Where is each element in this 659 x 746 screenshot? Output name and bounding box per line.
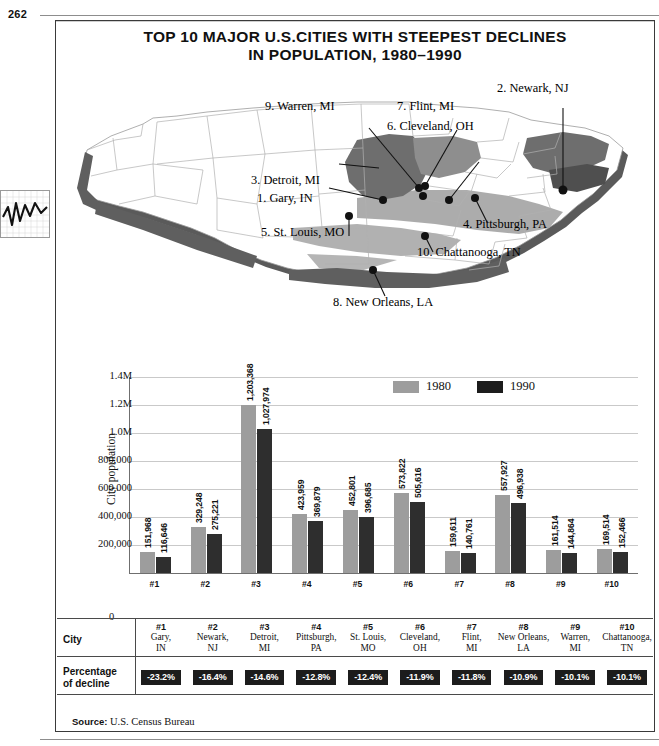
row-label-percentage-line2: of decline	[63, 678, 110, 689]
y-axis-tick: 600,000	[62, 482, 132, 493]
map-callout-2: 2. Newark, NJ	[497, 82, 569, 95]
row-label-city: City	[63, 634, 82, 646]
table-cell-percentage: -11.9%	[394, 666, 446, 685]
city-cells: #1Gary,IN#2Newark,NJ#3Detroit,MI#4Pittsb…	[135, 622, 653, 653]
bar-value-label: 152,466	[617, 517, 627, 547]
plot-area: 1.4M1.2M1.0M800,000600,000400,000200,000…	[129, 377, 638, 574]
bar-value-label: 452,801	[347, 475, 357, 505]
x-axis-tick: #1	[129, 579, 180, 589]
city-rank: #3	[239, 622, 291, 632]
map-callout-6: 6. Cleveland, OH	[387, 120, 474, 133]
bar-value-label: 396,685	[363, 483, 373, 513]
x-axis-tick: #2	[180, 579, 231, 589]
percentage-badge: -10.1%	[555, 670, 595, 685]
city-rank: #5	[342, 622, 394, 632]
bar-group: 452,801396,685	[333, 377, 384, 573]
bar-1990-8: 496,938	[511, 503, 526, 573]
bar-1980-5: 452,801	[343, 510, 358, 573]
title-line-1: TOP 10 MAJOR U.S.CITIES WITH STEEPEST DE…	[143, 28, 566, 45]
percentage-badge: -14.6%	[245, 670, 285, 685]
bar-1980-4: 423,959	[292, 514, 307, 573]
bar-group: 151,968116,646	[130, 377, 181, 573]
percentage-badge: -12.8%	[296, 670, 336, 685]
bar-1980-6: 573,822	[394, 493, 409, 573]
bar-1980-9: 161,514	[546, 550, 561, 573]
city-name: Flint,MI	[446, 632, 498, 653]
table-cell-percentage: -16.4%	[187, 666, 239, 685]
us-map: 3. Detroit, MI 1. Gary, IN 5. St. Louis,…	[57, 78, 653, 328]
bar-groups: 151,968116,646329,248275,2211,203,3681,0…	[130, 377, 638, 573]
table-cell-percentage: -14.6%	[239, 666, 291, 685]
bar-value-label: 161,514	[550, 516, 560, 546]
x-axis-tick: #6	[383, 579, 434, 589]
bar-1990-1: 116,646	[156, 557, 171, 573]
y-axis-tick: 200,000	[62, 538, 132, 549]
percentage-badge: -16.4%	[193, 670, 233, 685]
table-cell-city: #9Warren,MI	[549, 622, 601, 653]
bar-1990-10: 152,466	[613, 552, 628, 573]
table-cell-city: #5St. Louis,MO	[342, 622, 394, 653]
table-cell-percentage: -11.8%	[446, 666, 498, 685]
bar-1980-1: 151,968	[140, 552, 155, 573]
y-axis-tick: 800,000	[62, 454, 132, 465]
percentage-badge: -11.9%	[400, 670, 439, 685]
bar-value-label: 1,027,974	[261, 388, 271, 425]
bar-1980-3: 1,203,368	[241, 405, 256, 573]
bar-1980-2: 329,248	[191, 527, 206, 573]
bar-1990-7: 140,761	[461, 553, 476, 573]
bar-group: 159,611140,761	[435, 377, 486, 573]
map-callout-7: 7. Flint, MI	[397, 100, 454, 113]
percentage-badge: -10.1%	[607, 670, 647, 685]
bar-1980-8: 557,927	[495, 495, 510, 573]
bar-group: 573,822505,616	[384, 377, 435, 573]
bar-value-label: 144,864	[566, 518, 576, 548]
city-name: Gary,IN	[135, 632, 187, 653]
bar-value-label: 423,959	[296, 479, 306, 509]
city-rank: #9	[549, 622, 601, 632]
table-cell-city: #3Detroit,MI	[239, 622, 291, 653]
table-cell-percentage: -10.1%	[549, 666, 601, 685]
city-name: Pittsburgh,PA	[290, 632, 342, 653]
table-cell-city: #2Newark,NJ	[187, 622, 239, 653]
percentage-cells: -23.2%-16.4%-14.6%-12.8%-12.4%-11.9%-11.…	[135, 666, 653, 685]
city-name: Cleveland,OH	[394, 632, 446, 653]
bar-1980-7: 159,611	[445, 551, 460, 573]
city-rank: #6	[394, 622, 446, 632]
bar-group: 423,959369,879	[282, 377, 333, 573]
bar-value-label: 329,248	[194, 493, 204, 523]
y-axis-tick: 400,000	[62, 510, 132, 521]
map-callout-4: 4. Pittsburgh, PA	[463, 218, 547, 231]
bar-group: 329,248275,221	[181, 377, 232, 573]
table-cell-percentage: -10.9%	[498, 666, 550, 685]
figure-title: TOP 10 MAJOR U.S.CITIES WITH STEEPEST DE…	[60, 28, 650, 64]
table-cell-city: #1Gary,IN	[135, 622, 187, 653]
y-axis-tick: 1.0M	[62, 426, 132, 437]
table-cell-city: #7Flint,MI	[446, 622, 498, 653]
source-label: Source:	[72, 716, 107, 727]
city-name: St. Louis,MO	[342, 632, 394, 653]
city-name: New Orleans,LA	[498, 632, 550, 653]
bar-value-label: 496,938	[515, 469, 525, 499]
x-axis-tick: #8	[485, 579, 536, 589]
city-name: Detroit,MI	[239, 632, 291, 653]
table-cell-percentage: -12.4%	[342, 666, 394, 685]
table-cell-city: #6Cleveland,OH	[394, 622, 446, 653]
table-cell-percentage: -10.1%	[601, 666, 653, 685]
line-chart-thumbnail-icon	[0, 190, 50, 238]
bar-value-label: 505,616	[413, 468, 423, 498]
bar-group: 1,203,3681,027,974	[232, 377, 283, 573]
figure-page: 262 TOP 10 MAJOR U.S.CITIES WITH STEEPES…	[0, 0, 659, 746]
map-callout-1: 1. Gary, IN	[257, 192, 313, 205]
map-callout-5: 5. St. Louis, MO	[261, 226, 344, 239]
table-cell-percentage: -12.8%	[290, 666, 342, 685]
bar-value-label: 140,761	[464, 519, 474, 549]
title-line-2: IN POPULATION, 1980–1990	[60, 46, 650, 64]
map-callout-9: 9. Warren, MI	[265, 100, 335, 113]
bar-value-label: 116,646	[159, 523, 169, 553]
city-name: Warren,MI	[549, 632, 601, 653]
table-cell-city: #10Chattanooga,TN	[601, 622, 653, 653]
bottom-rule	[40, 739, 659, 740]
bar-value-label: 369,879	[312, 487, 322, 517]
bar-value-label: 1,203,368	[245, 363, 255, 400]
source-note: Source: U.S. Census Bureau	[72, 716, 195, 727]
